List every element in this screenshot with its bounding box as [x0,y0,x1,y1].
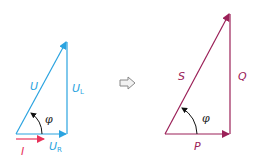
label-i: I [21,145,24,158]
s-hypotenuse [165,14,229,134]
right-arrow-icon [120,77,135,89]
label-q: Q [238,70,247,83]
label-u: U [30,80,38,93]
voltage-triangle: U UL UR I φ [16,42,84,158]
label-phi-left: φ [45,113,53,126]
power-triangle: S Q P φ [165,14,247,153]
label-p: P [194,140,201,153]
label-ur: UR [49,140,62,154]
label-ul: UL [72,82,84,96]
label-s: S [178,70,185,83]
angle-arc-icon [31,113,42,134]
label-phi-right: φ [202,112,210,125]
phasor-diagram: U UL UR I φ S Q P φ [0,0,256,161]
angle-arc-icon [182,108,197,134]
u-hypotenuse [16,42,66,134]
